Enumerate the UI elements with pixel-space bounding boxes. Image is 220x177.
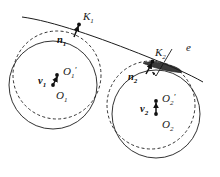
- label-normal-1: n1: [57, 34, 66, 48]
- label-velocity-2: v2: [140, 103, 149, 117]
- label-contact-point-1: K1: [82, 10, 94, 25]
- penetration-leader-arrow: [153, 72, 157, 76]
- contact-geometry-diagram: K1 n1 v1 O1' O1 K2 n2 v2 O2' O2 e: [0, 0, 220, 177]
- figure-container: K1 n1 v1 O1' O1 K2 n2 v2 O2' O2 e: [0, 0, 220, 177]
- velocity-vector-1-arrow: [53, 77, 57, 86]
- wheel-2-dashed-circle: [107, 61, 195, 149]
- label-contact-point-2: K2: [154, 46, 166, 61]
- label-normal-2: n2: [128, 71, 138, 85]
- label-center-2: O2: [162, 118, 174, 133]
- contact-point-2-dot: [151, 60, 155, 64]
- wheel-group-1: [9, 31, 101, 129]
- label-center-1-displaced: O1': [63, 65, 77, 80]
- wheel-group-2: [107, 61, 200, 158]
- wheel-2-displaced-center-dot: [154, 99, 158, 103]
- label-velocity-1: v1: [38, 75, 46, 89]
- label-center-2-displaced: O2': [162, 92, 176, 107]
- label-center-1: O1: [56, 89, 67, 104]
- label-penetration: e: [186, 41, 191, 53]
